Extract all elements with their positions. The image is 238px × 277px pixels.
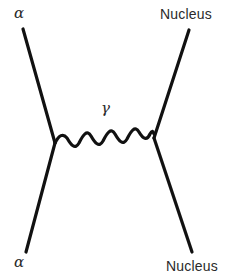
photon-label: γ <box>101 99 110 117</box>
alpha-outgoing-label: α <box>14 253 24 271</box>
nucleus-outgoing-label: Nucleus <box>166 258 218 274</box>
alpha-outgoing-line <box>26 143 55 252</box>
alpha-incoming-label: α <box>14 4 24 22</box>
feynman-diagram <box>0 0 238 277</box>
nucleus-incoming-line <box>154 30 189 138</box>
nucleus-outgoing-line <box>154 138 192 252</box>
photon-wavy-line <box>55 129 154 146</box>
alpha-incoming-line <box>23 29 55 143</box>
nucleus-incoming-label: Nucleus <box>160 6 212 22</box>
